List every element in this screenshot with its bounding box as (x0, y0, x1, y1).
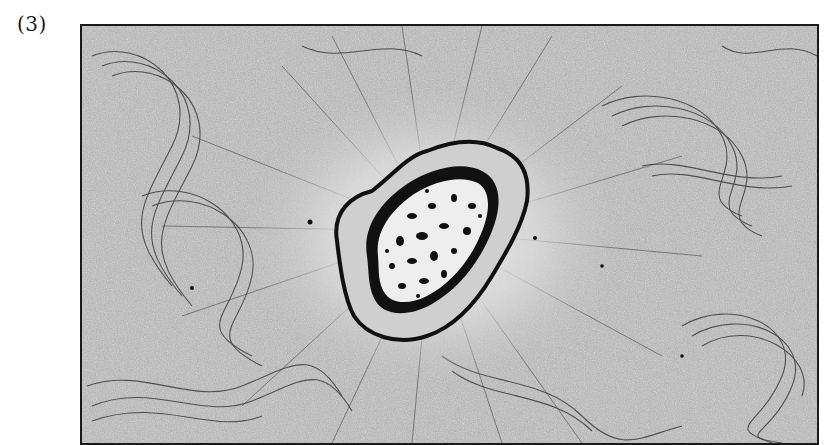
micrograph-image (80, 24, 819, 445)
micrograph-illustration (82, 26, 817, 443)
page: (3) (0, 0, 828, 445)
figure-label: (3) (17, 12, 47, 36)
